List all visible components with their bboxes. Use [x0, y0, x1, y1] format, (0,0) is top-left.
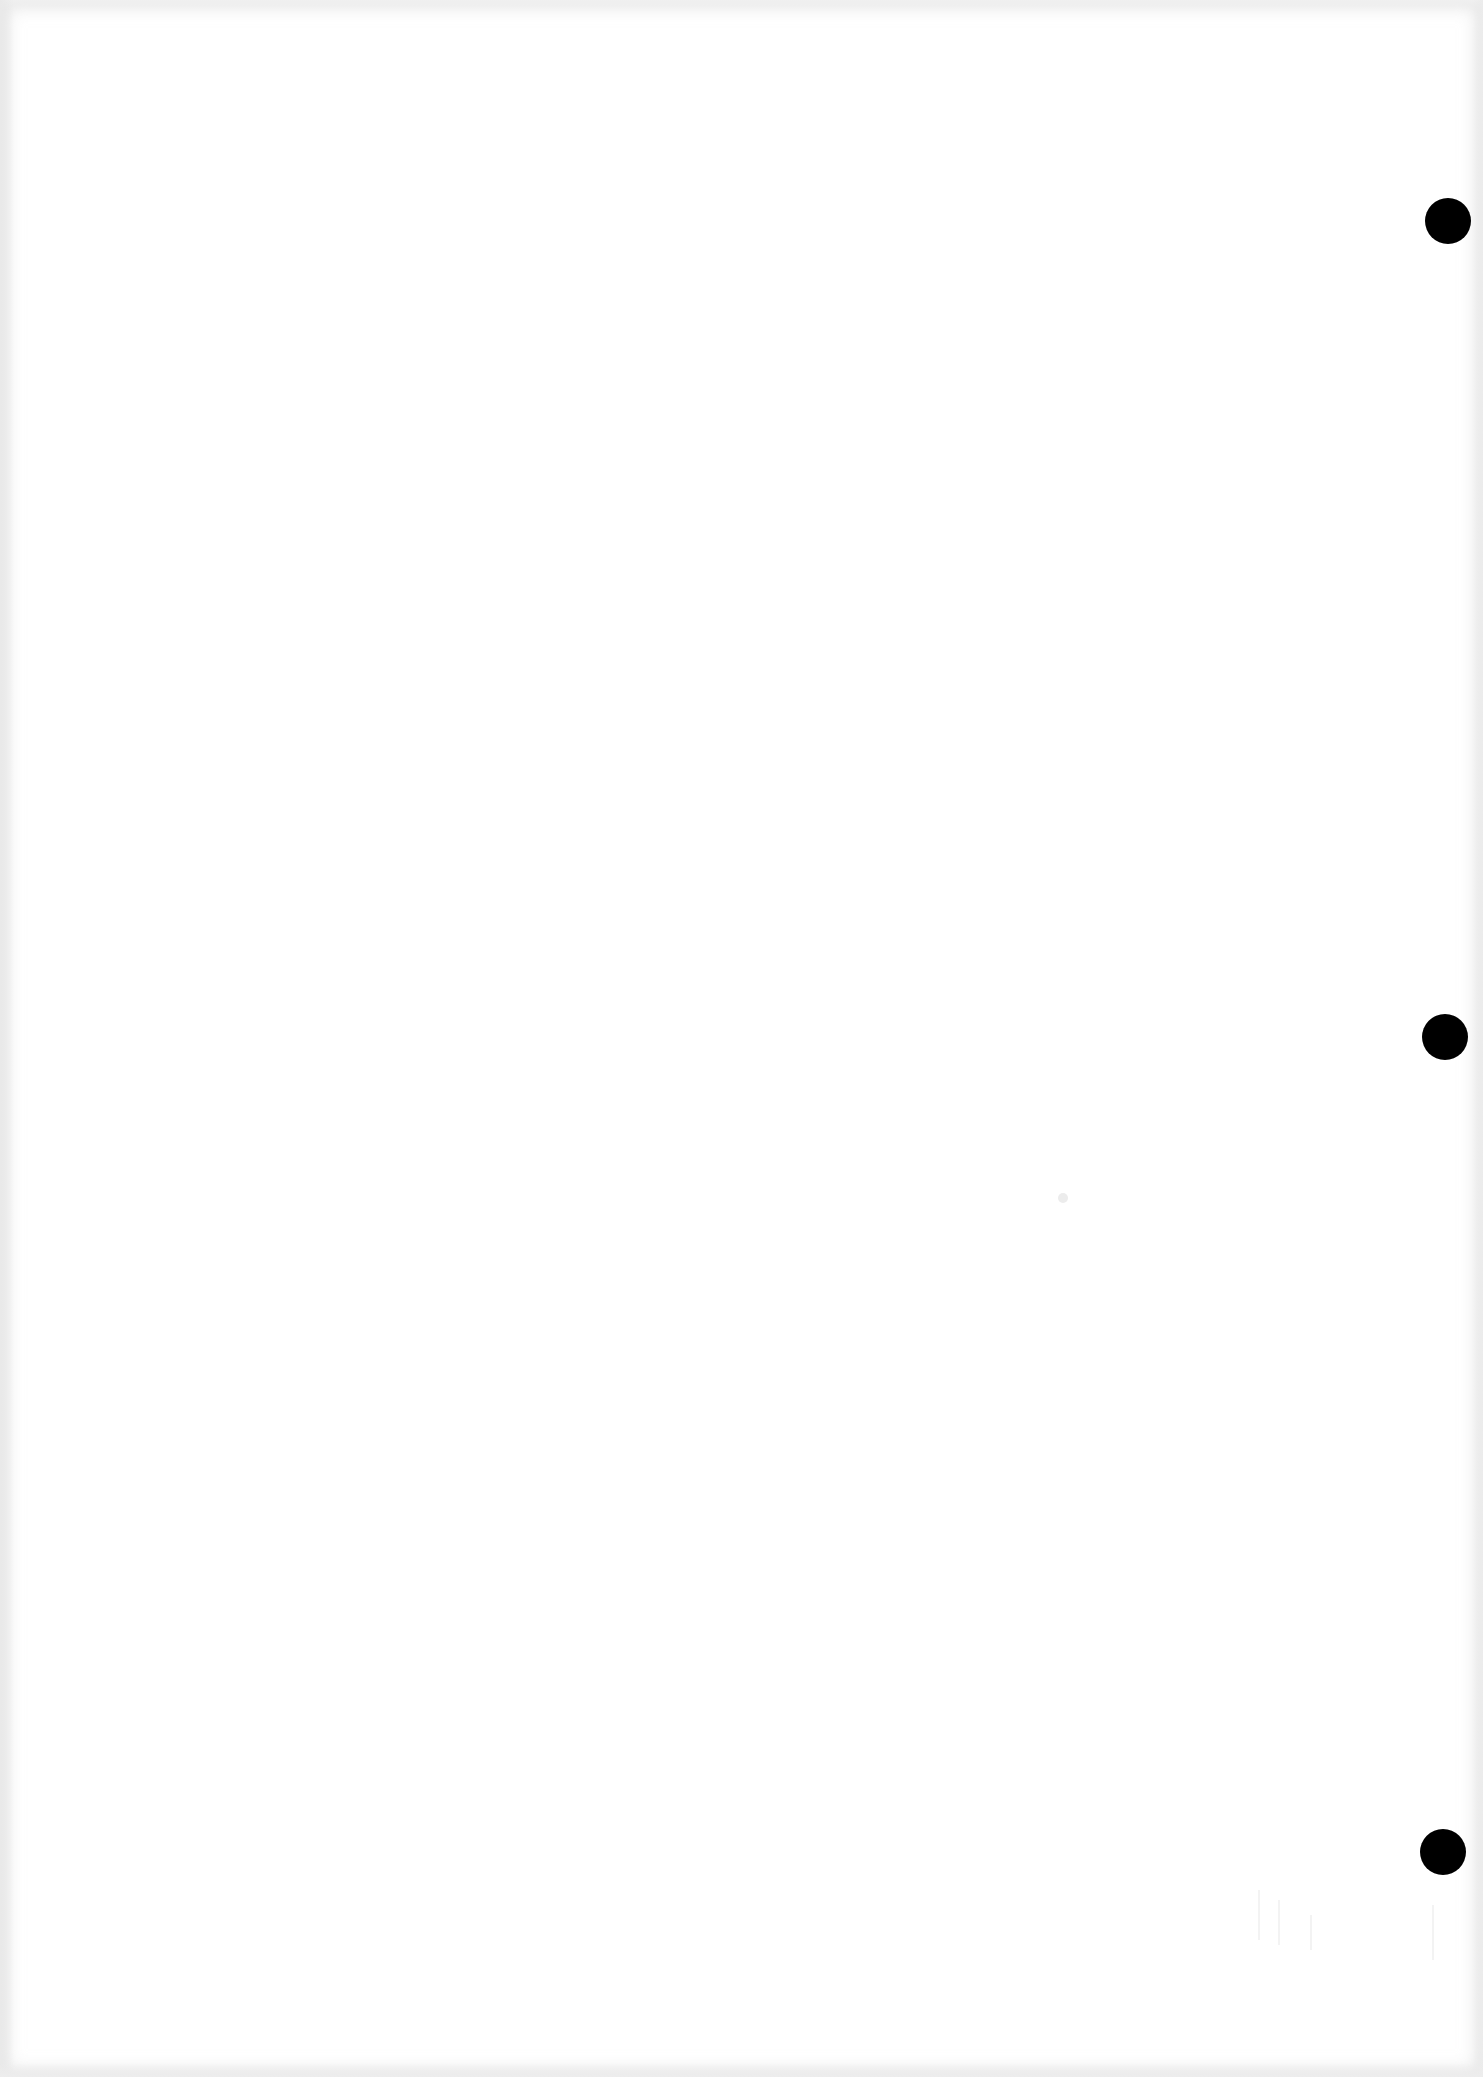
punch-hole-bottom	[1420, 1829, 1466, 1875]
scan-edge-bottom	[0, 2063, 1483, 2077]
bleed-through-mark	[1278, 1900, 1280, 1945]
punch-hole-top	[1425, 198, 1471, 244]
scan-edge-top	[0, 0, 1483, 10]
scan-edge-right	[1473, 0, 1483, 2077]
bleed-through-mark	[1058, 1193, 1068, 1203]
scan-edge-left	[0, 0, 14, 2077]
scanned-page	[0, 0, 1483, 2077]
bleed-through-mark	[1310, 1915, 1312, 1950]
bleed-through-mark	[1258, 1890, 1260, 1940]
punch-hole-middle	[1422, 1014, 1468, 1060]
bleed-through-mark	[1432, 1905, 1434, 1960]
